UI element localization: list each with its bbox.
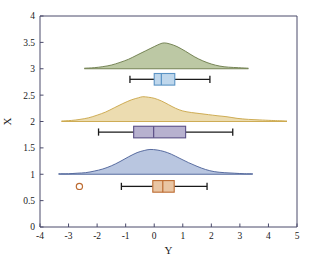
kde-cloud-group-2 xyxy=(61,97,287,122)
x-axis-title: Y xyxy=(165,244,173,256)
x-tick-label-4: 0 xyxy=(152,231,157,241)
kde-fill-group-2 xyxy=(61,97,287,122)
y-tick-label-2: 1 xyxy=(30,170,35,180)
kde-fill-group-1 xyxy=(59,149,253,174)
x-tick-label-1: -3 xyxy=(65,231,73,241)
x-tick-label-7: 3 xyxy=(238,231,243,241)
kde-cloud-group-1 xyxy=(59,149,253,174)
boxplot-group-1 xyxy=(76,181,207,193)
y-tick-label-7: 3.5 xyxy=(23,38,35,48)
x-tick-label-3: -1 xyxy=(122,231,130,241)
plot-canvas: -4-3-2-101234500.511.522.533.54 YX xyxy=(0,0,312,267)
x-tick-label-9: 5 xyxy=(295,231,300,241)
boxplot-group-3 xyxy=(130,73,210,85)
y-tick-label-6: 3 xyxy=(30,64,35,74)
x-tick-label-6: 2 xyxy=(209,231,214,241)
kde-clouds-layer xyxy=(59,43,287,174)
x-tick-label-2: -2 xyxy=(93,231,101,241)
raincloud-chart-figure: -4-3-2-101234500.511.522.533.54 YX xyxy=(0,0,312,267)
y-tick-label-3: 1.5 xyxy=(23,143,35,153)
x-tick-label-0: -4 xyxy=(36,231,44,241)
y-tick-label-8: 4 xyxy=(30,11,35,21)
box-group-2 xyxy=(134,126,186,138)
boxplot-group-2 xyxy=(99,126,233,138)
kde-cloud-group-3 xyxy=(84,43,248,69)
y-tick-label-0: 0 xyxy=(30,222,35,232)
y-tick-label-5: 2.5 xyxy=(23,91,35,101)
y-tick-label-4: 2 xyxy=(30,117,35,127)
x-tick-label-8: 4 xyxy=(266,231,271,241)
y-tick-label-1: 0.5 xyxy=(23,196,35,206)
box-group-1 xyxy=(153,181,174,193)
box-group-3 xyxy=(154,73,175,85)
outlier-point-group-1-0 xyxy=(76,183,82,189)
y-axis-title: X xyxy=(1,117,13,125)
x-tick-label-5: 1 xyxy=(180,231,185,241)
kde-fill-group-3 xyxy=(84,43,248,69)
